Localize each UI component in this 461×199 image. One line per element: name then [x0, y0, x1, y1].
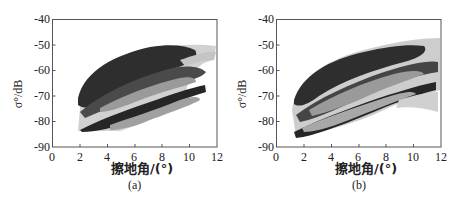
y-axis-label-a: σ°/dB	[12, 80, 24, 109]
xtick-a-0: 0	[42, 151, 62, 163]
xtick-b-1: 2	[294, 151, 314, 163]
chart-panel-b: -40 -50 -60 -70 -80 -90 0 2 4 6 8 10 12 …	[224, 0, 454, 199]
chart-panel-a: -40 -50 -60 -70 -80 -90 0 2 4 6 8 10 12 …	[0, 0, 230, 199]
ytick-b-2: -60	[240, 64, 274, 76]
ytick-b-1: -50	[240, 39, 274, 51]
xtick-b-6: 12	[431, 151, 451, 163]
ytick-b-4: -80	[240, 115, 274, 127]
xtick-a-1: 2	[70, 151, 90, 163]
scatter-cloud-b	[292, 38, 440, 138]
xtick-b-0: 0	[266, 151, 286, 163]
xtick-a-5: 10	[179, 151, 199, 163]
x-axis-label-a: 擦地角/(°)	[111, 163, 173, 175]
x-axis-label-b: 擦地角/(°)	[335, 163, 397, 175]
ytick-a-0: -40	[16, 13, 50, 25]
panel-caption-a: (a)	[128, 179, 141, 191]
scatter-cloud-a	[78, 45, 216, 132]
ytick-b-0: -40	[240, 13, 274, 25]
ytick-a-2: -60	[16, 64, 50, 76]
xtick-b-5: 10	[403, 151, 423, 163]
y-axis-label-b: σ°/dB	[236, 80, 248, 109]
ytick-a-4: -80	[16, 115, 50, 127]
ytick-a-1: -50	[16, 39, 50, 51]
panel-caption-b: (b)	[352, 179, 366, 191]
